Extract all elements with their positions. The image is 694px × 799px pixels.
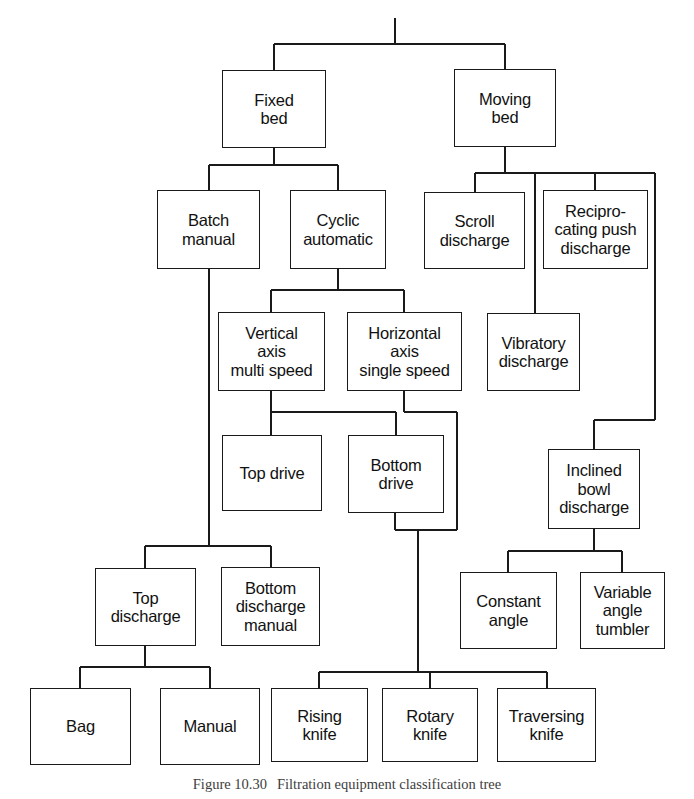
connector-bottom-drive-drop (395, 513, 457, 672)
node-label-cyclic-automatic: Cyclic automatic (303, 211, 373, 248)
connector-recip-to-inclined (594, 420, 655, 449)
connector-vertical-to-drives (271, 391, 396, 435)
node-label-rising-knife: Rising knife (297, 707, 342, 744)
node-label-fixed-bed: Fixed bed (254, 91, 293, 128)
node-label-rotary-knife: Rotary knife (406, 707, 453, 744)
node-cyclic-automatic[interactable]: Cyclic automatic (290, 190, 386, 269)
node-vibratory-discharge[interactable]: Vibratory discharge (487, 313, 580, 391)
node-label-bag: Bag (66, 717, 95, 735)
figure-caption-number: Figure 10.30 (193, 776, 267, 792)
connector-discharge-bus (145, 546, 271, 568)
node-top-drive[interactable]: Top drive (222, 435, 322, 511)
node-bag[interactable]: Bag (30, 688, 131, 765)
connector-inclined-to-angles (508, 529, 622, 572)
node-label-manual: Manual (184, 717, 237, 735)
node-label-constant-angle: Constant angle (476, 592, 540, 629)
node-label-moving-bed: Moving bed (479, 90, 531, 127)
node-fixed-bed[interactable]: Fixed bed (222, 70, 326, 148)
node-reciprocating-push[interactable]: Recipro- cating push discharge (543, 190, 648, 269)
node-label-reciprocating-push: Recipro- cating push discharge (554, 202, 636, 257)
node-label-vibratory-discharge: Vibratory discharge (499, 334, 569, 371)
node-variable-angle-tumbler[interactable]: Variable angle tumbler (580, 572, 665, 649)
node-label-horizontal-axis: Horizontal axis single speed (359, 324, 449, 379)
node-label-traversing-knife: Traversing knife (509, 707, 584, 744)
node-label-top-drive: Top drive (239, 464, 304, 482)
node-label-inclined-bowl: Inclined bowl discharge (559, 461, 629, 516)
node-scroll-discharge[interactable]: Scroll discharge (424, 192, 525, 269)
figure-caption-text: Filtration equipment classification tree (277, 776, 501, 792)
node-label-variable-angle-tumbler: Variable angle tumbler (594, 583, 652, 638)
node-rising-knife[interactable]: Rising knife (271, 688, 368, 762)
node-vertical-axis[interactable]: Vertical axis multi speed (218, 312, 325, 391)
figure-root: Fixed bedMoving bedBatch manualCyclic au… (0, 0, 694, 799)
node-batch-manual[interactable]: Batch manual (157, 190, 260, 269)
node-horizontal-axis[interactable]: Horizontal axis single speed (347, 312, 462, 391)
node-rotary-knife[interactable]: Rotary knife (382, 688, 478, 762)
node-inclined-bowl[interactable]: Inclined bowl discharge (548, 449, 640, 529)
figure-caption: Figure 10.30Filtration equipment classif… (0, 776, 694, 793)
node-moving-bed[interactable]: Moving bed (454, 69, 556, 147)
node-label-bottom-discharge-manual: Bottom discharge manual (236, 579, 306, 634)
connector-cyclic-to-children (271, 269, 404, 312)
node-top-discharge[interactable]: Top discharge (95, 568, 196, 646)
connector-root-to-fixed (274, 44, 505, 70)
diagram-connector-layer (0, 0, 694, 799)
node-manual[interactable]: Manual (160, 688, 260, 765)
node-bottom-drive[interactable]: Bottom drive (348, 435, 444, 513)
node-label-vertical-axis: Vertical axis multi speed (230, 324, 312, 379)
node-label-top-discharge: Top discharge (111, 589, 181, 626)
connector-fixed-to-children (209, 148, 338, 190)
node-label-scroll-discharge: Scroll discharge (440, 212, 510, 249)
node-constant-angle[interactable]: Constant angle (460, 572, 557, 649)
node-label-bottom-drive: Bottom drive (370, 456, 421, 493)
node-label-batch-manual: Batch manual (182, 211, 235, 248)
node-bottom-discharge-manual[interactable]: Bottom discharge manual (221, 567, 320, 646)
connector-knives-bus (319, 672, 547, 688)
connector-topdisch-to-bagmanual (80, 646, 210, 688)
node-traversing-knife[interactable]: Traversing knife (497, 688, 596, 762)
